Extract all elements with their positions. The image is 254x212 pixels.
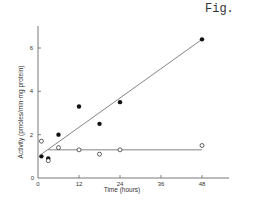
filled-data-point: [77, 104, 81, 108]
filled-data-point: [56, 132, 60, 136]
open-data-point: [57, 146, 61, 150]
open-data-point: [118, 148, 122, 152]
x-tick-label: 0: [36, 181, 40, 187]
fit-lines: [41, 39, 202, 154]
open-data-point: [200, 144, 204, 148]
chart: 0122436480246 Time (hours) Activity (pmo…: [0, 0, 254, 212]
x-axis-title: Time (hours): [104, 186, 141, 194]
open-data-point: [77, 148, 81, 152]
x-tick-label: 12: [76, 181, 83, 187]
x-tick-label: 48: [199, 181, 206, 187]
y-tick-label: 6: [30, 45, 34, 51]
open-data-point: [98, 152, 102, 156]
axes: 0122436480246: [30, 26, 229, 187]
open-data-point: [46, 159, 50, 163]
fit-line: [41, 39, 202, 154]
filled-data-point: [97, 122, 101, 126]
y-axis-title: Activity (pmoles/min·mg protein): [17, 66, 25, 159]
filled-data-point: [200, 37, 204, 41]
open-data-point: [39, 139, 43, 143]
data-points: [39, 37, 204, 163]
x-tick-label: 36: [158, 181, 165, 187]
filled-data-point: [118, 100, 122, 104]
y-tick-label: 4: [30, 88, 34, 94]
filled-data-point: [39, 154, 43, 158]
y-tick-label: 0: [31, 175, 35, 181]
y-tick-label: 2: [30, 132, 34, 138]
